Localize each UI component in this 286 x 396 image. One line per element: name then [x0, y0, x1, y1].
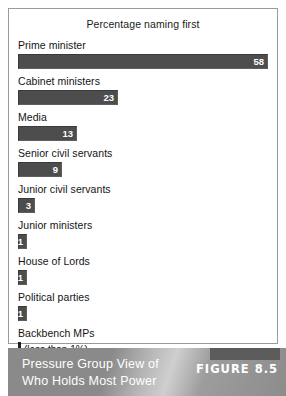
- bar-row: Junior civil servants3: [18, 183, 270, 219]
- bar-rows: Prime minister58Cabinet ministers23Media…: [18, 39, 270, 363]
- bar-value-label: 3: [26, 199, 34, 212]
- bar-row-label: Media: [18, 111, 270, 124]
- bar-value-label: 23: [103, 91, 117, 104]
- bar-value-label: 1: [18, 271, 26, 284]
- chart-panel: Percentage naming first Prime minister58…: [8, 8, 278, 344]
- bar-value-label: 1: [18, 235, 26, 248]
- bar-row: Cabinet ministers23: [18, 75, 270, 111]
- chart-title: Percentage naming first: [9, 18, 277, 30]
- bar-row-label: Senior civil servants: [18, 147, 270, 160]
- bar: 13: [18, 126, 77, 141]
- bar: 1: [18, 234, 27, 249]
- bar-track: 58: [18, 54, 270, 69]
- figure-caption-band: Pressure Group View of Who Holds Most Po…: [8, 348, 286, 396]
- bar-row: Prime minister58: [18, 39, 270, 75]
- bar: 58: [18, 54, 268, 69]
- figure-number: FIGURE 8.5: [196, 362, 278, 376]
- bar-row: Junior ministers1: [18, 219, 270, 255]
- bar: 1: [18, 306, 27, 321]
- bar-row-label: Junior ministers: [18, 219, 270, 232]
- bar: 1: [18, 270, 27, 285]
- figure-caption-line-1: Pressure Group View of: [22, 356, 159, 373]
- bar-track: 1: [18, 306, 270, 321]
- bar-row-label: Junior civil servants: [18, 183, 270, 196]
- bar-row-label: Prime minister: [18, 39, 270, 52]
- bar-row-label: Political parties: [18, 291, 270, 304]
- figure-caption: Pressure Group View of Who Holds Most Po…: [22, 356, 159, 390]
- bar-track: 9: [18, 162, 270, 177]
- caption-band-accent-block: [210, 348, 280, 360]
- bar-value-label: 13: [62, 127, 76, 140]
- bar-row: Media13: [18, 111, 270, 147]
- bar-value-label: 1: [18, 307, 26, 320]
- bar-track: 13: [18, 126, 270, 141]
- figure-container: Percentage naming first Prime minister58…: [0, 0, 286, 396]
- bar-value-label: 9: [53, 163, 61, 176]
- bar-track: 1: [18, 234, 270, 249]
- bar-row-label: Backbench MPs: [18, 327, 270, 340]
- bar: 23: [18, 90, 118, 105]
- bar-row: Political parties1: [18, 291, 270, 327]
- bar-value-label: 58: [253, 55, 267, 68]
- bar-row: House of Lords1: [18, 255, 270, 291]
- figure-caption-line-2: Who Holds Most Power: [22, 373, 159, 390]
- bar-row: Senior civil servants9: [18, 147, 270, 183]
- bar-row-label: House of Lords: [18, 255, 270, 268]
- bar-track: 1: [18, 270, 270, 285]
- bar: 9: [18, 162, 62, 177]
- bar-row-label: Cabinet ministers: [18, 75, 270, 88]
- bar: 3: [18, 198, 35, 213]
- bar-track: 3: [18, 198, 270, 213]
- bar-track: 23: [18, 90, 270, 105]
